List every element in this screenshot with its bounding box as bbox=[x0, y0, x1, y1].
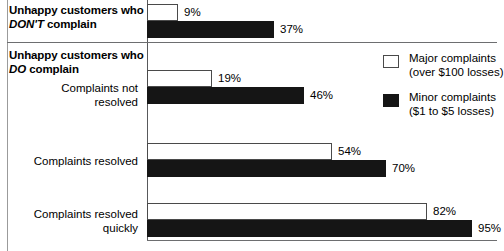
bar-value-major-resolved-quickly: 82% bbox=[433, 203, 456, 220]
legend-label-major: Major complaints (over $100 losses) bbox=[409, 52, 504, 79]
bar-value-minor-resolved-quickly: 95% bbox=[478, 220, 501, 237]
section-do-emphasis: DO bbox=[9, 63, 26, 75]
section-heading-do-complain: Unhappy customers who DO complain bbox=[9, 49, 149, 76]
bar-value-major-not-resolved: 19% bbox=[218, 70, 241, 87]
legend: Major complaints (over $100 losses) Mino… bbox=[383, 54, 503, 132]
section-dont-emphasis: DON'T bbox=[9, 18, 44, 30]
major-swatch-icon bbox=[383, 55, 399, 68]
bar-major-resolved bbox=[147, 143, 332, 160]
section-dont-suffix: complain bbox=[47, 18, 97, 30]
legend-major-line1: Major complaints bbox=[409, 52, 496, 64]
legend-item-minor: Minor complaints ($1 to $5 losses) bbox=[383, 93, 503, 121]
row-label-complaints-resolved-quickly: Complaints resolved quickly bbox=[20, 208, 138, 235]
bar-major-not-resolved bbox=[147, 70, 212, 87]
section-heading-dont-complain: Unhappy customers who DON'T complain bbox=[9, 4, 149, 31]
bar-minor-resolved bbox=[147, 160, 386, 177]
section-dont-prefix: Unhappy customers who bbox=[9, 4, 144, 16]
row-label-complaints-not-resolved: Complaints not resolved bbox=[20, 82, 138, 109]
legend-label-minor: Minor complaints ($1 to $5 losses) bbox=[409, 91, 504, 118]
bar-minor-not-resolved bbox=[147, 87, 304, 104]
minor-swatch-icon bbox=[383, 94, 399, 107]
bottom-border-rule bbox=[147, 240, 497, 241]
bar-value-major-resolved: 54% bbox=[338, 143, 361, 160]
bar-minor-dont-complain bbox=[147, 21, 274, 38]
bar-chart: Unhappy customers who DON'T complain Unh… bbox=[0, 0, 504, 251]
left-border-rule bbox=[7, 0, 8, 251]
bar-value-major-dont-complain: 9% bbox=[184, 4, 201, 21]
row-label-complaints-resolved: Complaints resolved bbox=[20, 155, 138, 169]
bar-value-minor-not-resolved: 46% bbox=[310, 87, 333, 104]
legend-minor-line2: ($1 to $5 losses) bbox=[409, 105, 494, 117]
bar-major-dont-complain bbox=[147, 4, 178, 21]
section-do-suffix: complain bbox=[29, 63, 79, 75]
legend-major-line2: (over $100 losses) bbox=[409, 66, 504, 78]
legend-minor-line1: Minor complaints bbox=[409, 91, 496, 103]
bar-value-minor-dont-complain: 37% bbox=[280, 21, 303, 38]
bar-major-resolved-quickly bbox=[147, 203, 427, 220]
bar-minor-resolved-quickly bbox=[147, 220, 472, 237]
section-divider-rule bbox=[7, 42, 497, 43]
section-do-prefix: Unhappy customers who bbox=[9, 49, 144, 61]
bar-value-minor-resolved: 70% bbox=[392, 160, 415, 177]
legend-item-major: Major complaints (over $100 losses) bbox=[383, 54, 503, 82]
